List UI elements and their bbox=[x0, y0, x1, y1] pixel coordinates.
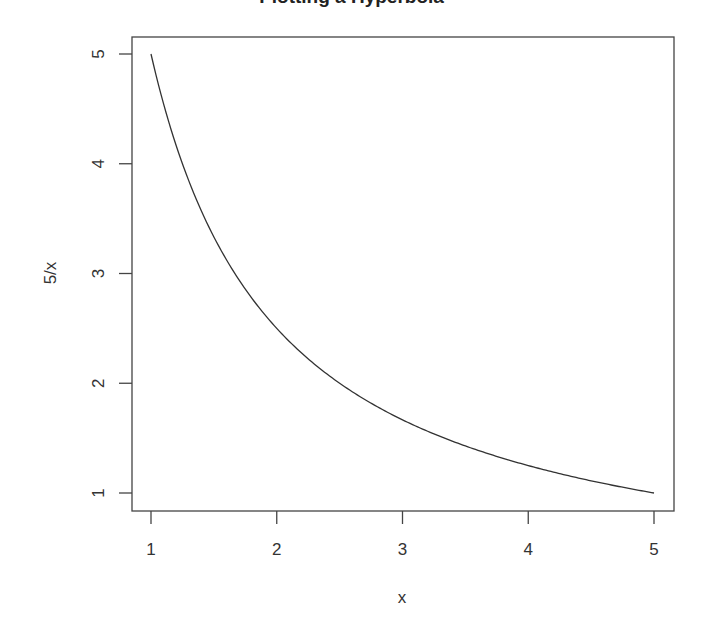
y-tick-label: 5 bbox=[89, 49, 108, 58]
chart-plot: 12345 12345 x 5/x bbox=[0, 0, 703, 629]
y-tick-label: 3 bbox=[89, 269, 108, 278]
y-tick-label: 4 bbox=[89, 159, 108, 168]
x-axis: 12345 bbox=[146, 511, 658, 559]
y-axis: 12345 bbox=[89, 49, 132, 497]
x-tick-label: 1 bbox=[146, 540, 155, 559]
x-tick-label: 3 bbox=[398, 540, 407, 559]
y-tick-label: 1 bbox=[89, 488, 108, 497]
plot-frame bbox=[132, 37, 674, 511]
x-tick-label: 5 bbox=[649, 540, 658, 559]
y-axis-label: 5/x bbox=[41, 261, 60, 284]
y-tick-label: 2 bbox=[89, 379, 108, 388]
x-axis-label: x bbox=[398, 588, 407, 607]
x-tick-label: 4 bbox=[524, 540, 533, 559]
data-line-5-over-x bbox=[151, 54, 654, 493]
x-tick-label: 2 bbox=[272, 540, 281, 559]
